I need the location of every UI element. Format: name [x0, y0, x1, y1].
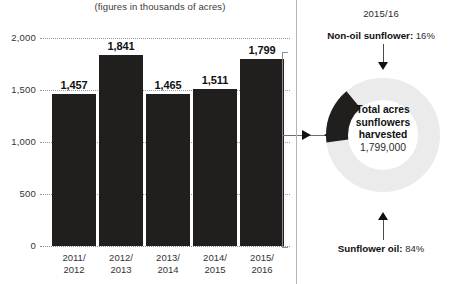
y-tick-label-1000: 1,000 — [2, 136, 36, 147]
bar-2015-2016[interactable] — [240, 59, 284, 246]
x-tick-2015-2016: 2015/ 2016 — [232, 252, 292, 275]
bar-2014-2015[interactable] — [193, 89, 237, 246]
bar-value-2011-2012: 1,457 — [44, 79, 104, 91]
axis-zero-line — [40, 246, 290, 247]
bar-chart: 2,000 1,500 1,000 500 0 1,457 1,841 1,46… — [0, 0, 300, 284]
highlight-bracket — [282, 52, 288, 248]
callout-top-leader-line — [383, 44, 384, 64]
donut-center-text: Total acres sunflowers harvested 1,799,0… — [331, 104, 435, 154]
callout-sunflower-oil: Sunflower oil: 84% — [306, 243, 456, 254]
y-tick-label-0: 0 — [2, 240, 36, 251]
donut-center-line1: Total acres — [331, 104, 435, 117]
callout-oil-label: Sunflower oil: — [338, 243, 403, 254]
y-tick-label-500: 500 — [2, 188, 36, 199]
bar-value-2012-2013: 1,841 — [91, 40, 151, 52]
x-tick-line1: 2015/ — [232, 252, 292, 264]
arrow-right-icon — [302, 130, 311, 140]
x-tick-line2: 2016 — [232, 264, 292, 276]
infographic-root: (figures in thousands of acres) 2,000 1,… — [0, 0, 456, 284]
bar-2012-2013[interactable] — [99, 55, 143, 246]
callout-non-oil-label: Non-oil sunflower: — [327, 30, 413, 41]
callout-bottom-leader-line — [383, 220, 384, 240]
donut-center-line3: harvested — [331, 129, 435, 142]
gridline-2000 — [40, 38, 290, 39]
bar-value-2014-2015: 1,511 — [185, 74, 245, 86]
arrow-down-icon — [378, 62, 388, 70]
bar-2013-2014[interactable] — [146, 94, 190, 246]
y-tick-label-1500: 1,500 — [2, 84, 36, 95]
arrow-up-icon — [378, 212, 388, 220]
callout-non-oil-value: 16% — [416, 30, 435, 41]
donut-center-value: 1,799,000 — [331, 142, 435, 155]
donut-center-line2: sunflowers — [331, 117, 435, 130]
y-tick-label-2000: 2,000 — [2, 32, 36, 43]
bar-2011-2012[interactable] — [52, 94, 96, 246]
callout-oil-value: 84% — [405, 243, 424, 254]
donut-title: 2015/16 — [306, 8, 456, 19]
callout-non-oil-sunflower: Non-oil sunflower: 16% — [306, 30, 456, 41]
panel-divider — [296, 0, 297, 284]
